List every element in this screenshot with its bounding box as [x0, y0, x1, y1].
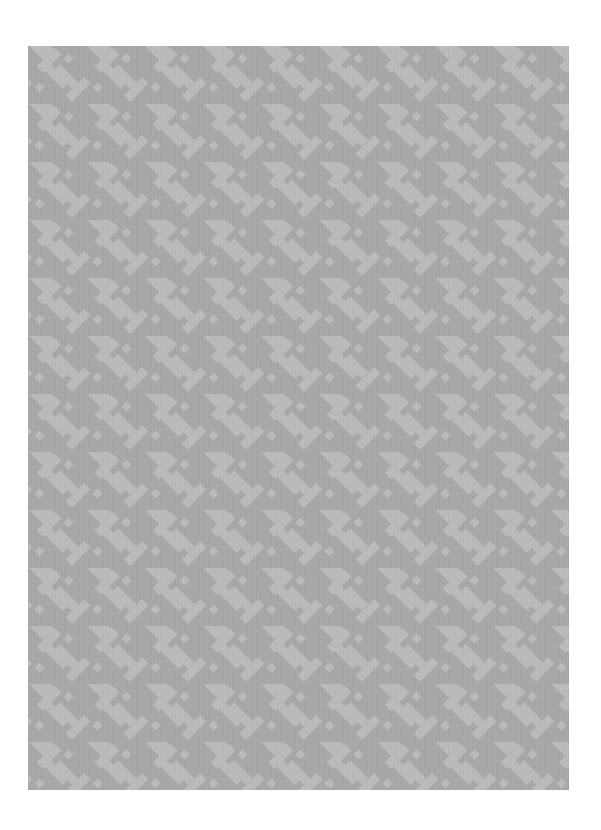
patterned-swatch [28, 46, 569, 790]
basketweave-pattern [28, 46, 569, 790]
